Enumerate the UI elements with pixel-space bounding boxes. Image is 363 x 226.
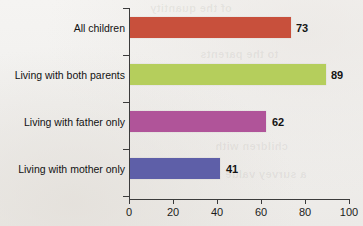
y-axis-tick (123, 55, 129, 56)
y-axis-tick (123, 196, 129, 197)
y-axis-line (129, 8, 130, 200)
bar-value-mother-only: 41 (226, 163, 238, 175)
x-axis-tick-label: 80 (299, 206, 311, 218)
bar-value-father-only: 62 (272, 116, 284, 128)
category-label-all-children: All children (74, 22, 125, 34)
x-axis-tick (217, 199, 218, 204)
y-axis-tick (123, 8, 129, 9)
category-label-father-only: Living with father only (24, 116, 125, 128)
x-axis-line (129, 199, 349, 200)
x-axis-tick-label: 20 (167, 206, 179, 218)
bar-value-all-children: 73 (296, 22, 308, 34)
category-label-mother-only: Living with mother only (18, 163, 125, 175)
bar-mother-only (130, 158, 220, 179)
x-axis-tick-label: 60 (255, 206, 267, 218)
bar-father-only (130, 111, 266, 132)
x-axis-tick-label: 0 (126, 206, 132, 218)
y-axis-tick (123, 102, 129, 103)
x-axis-tick (305, 199, 306, 204)
bar-value-both-parents: 89 (331, 69, 343, 81)
x-axis-tick (261, 199, 262, 204)
bar-all-children (130, 17, 291, 38)
category-label-both-parents: Living with both parents (15, 69, 125, 81)
bar-both-parents (130, 64, 326, 85)
x-axis-tick (173, 199, 174, 204)
x-axis-tick (129, 199, 130, 204)
x-axis-tick (349, 199, 350, 204)
bar-chart: All children Living with both parents Li… (0, 0, 363, 226)
x-axis-tick-label: 100 (340, 206, 358, 218)
y-axis-tick (123, 149, 129, 150)
x-axis-tick-label: 40 (211, 206, 223, 218)
